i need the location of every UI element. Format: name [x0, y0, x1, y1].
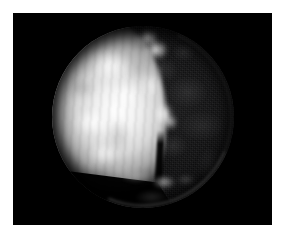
disc-vignette — [52, 26, 234, 208]
page-root — [0, 0, 289, 237]
astronomical-frame — [13, 13, 272, 225]
planetary-disc — [52, 26, 234, 208]
